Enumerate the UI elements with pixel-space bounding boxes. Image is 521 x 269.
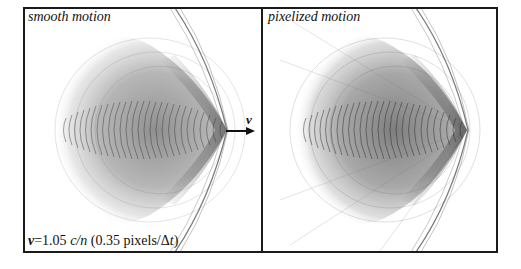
velocity-label: v	[246, 112, 252, 128]
caption-c-over-n: c/n	[70, 233, 87, 248]
panel-divider	[261, 7, 263, 253]
caption-pixels-per-step: (0.35 pixels/Δ	[87, 233, 170, 248]
panel-title-pixelized-motion: pixelized motion	[268, 9, 360, 25]
cherenkov-figure: smooth motion pixelized motion v v=1.05 …	[0, 0, 521, 269]
velocity-caption: v=1.05 c/n (0.35 pixels/Δt)	[28, 233, 178, 249]
caption-value: =1.05	[34, 233, 70, 248]
caption-close: )	[174, 233, 179, 248]
panel-title-smooth-motion: smooth motion	[28, 9, 111, 25]
